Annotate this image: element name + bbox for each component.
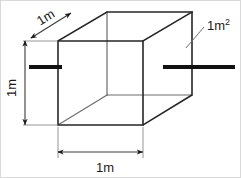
cube-diagram-figure: 1m 1m 1m 1m2 [0, 0, 241, 178]
area-leader-line [186, 27, 204, 48]
depth-label: 1m [34, 6, 57, 28]
depth-dimension-group: 1m [31, 6, 71, 38]
top-right-depth-edge [143, 12, 192, 41]
figure-border [1, 1, 241, 178]
cube-diagram-svg: 1m 1m 1m 1m2 [0, 0, 241, 178]
area-label-value: 1m [207, 18, 225, 33]
width-label: 1m [96, 160, 114, 175]
height-label: 1m [4, 79, 19, 97]
bottom-left-depth-edge [58, 95, 107, 125]
front-face-outline [58, 41, 143, 125]
area-label-exponent: 2 [225, 17, 230, 27]
width-dimension-group: 1m [58, 127, 143, 175]
area-label: 1m2 [207, 17, 230, 33]
height-dimension-group: 1m [4, 41, 58, 125]
